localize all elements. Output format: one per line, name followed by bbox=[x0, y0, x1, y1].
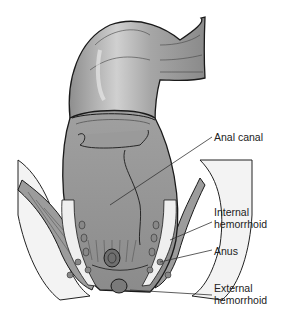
label-external-hemorrhoid: External hemorrhoid bbox=[214, 282, 267, 306]
external-hemorrhoid-shape bbox=[111, 279, 127, 293]
label-internal-hemorrhoid: Internal hemorrhoid bbox=[214, 206, 267, 230]
label-anus: Anus bbox=[214, 245, 238, 257]
anatomy-illustration bbox=[0, 0, 281, 321]
sigmoid-colon bbox=[69, 17, 205, 122]
internal-hemorrhoid-shape bbox=[104, 249, 120, 267]
label-anal-canal: Anal canal bbox=[214, 131, 263, 143]
